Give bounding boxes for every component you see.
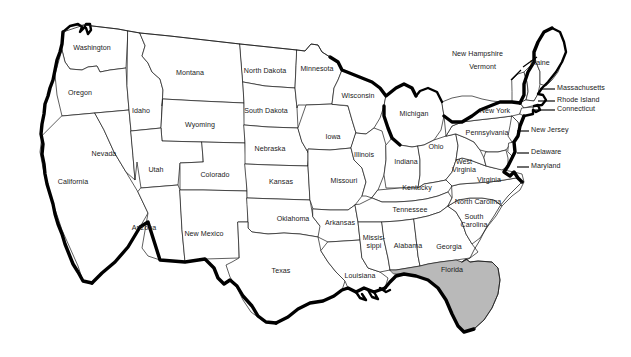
state-label-alabama[interactable]: Alabama: [394, 243, 422, 251]
state-label-south-carolina[interactable]: SouthCarolina: [457, 214, 491, 230]
state-label-montana[interactable]: Montana: [176, 70, 204, 78]
state-label-utah[interactable]: Utah: [148, 167, 163, 175]
state-label-minnesota[interactable]: Minnesota: [300, 66, 333, 74]
state-label-oregon[interactable]: Oregon: [68, 90, 92, 98]
state-label-louisiana[interactable]: Louisiana: [345, 273, 376, 281]
state-label-colorado[interactable]: Colorado: [200, 172, 229, 180]
state-shape-northdakota[interactable]: [240, 44, 297, 88]
state-label-missouri[interactable]: Missouri: [331, 178, 358, 186]
state-label-new-mexico[interactable]: New Mexico: [184, 231, 223, 239]
us-map-container: WashingtonOregonCaliforniaNevadaIdahoMon…: [0, 0, 631, 357]
state-label-arizona[interactable]: Arizona: [132, 225, 156, 233]
state-label-oklahoma[interactable]: Oklahoma: [277, 216, 310, 224]
callout-label-delaware[interactable]: Delaware: [531, 149, 561, 157]
state-label-florida[interactable]: Florida: [441, 267, 463, 275]
state-label-ohio[interactable]: Ohio: [428, 144, 443, 152]
us-map-svg: [0, 0, 631, 357]
state-shape-southdakota[interactable]: [243, 82, 298, 128]
state-label-iowa[interactable]: Iowa: [325, 134, 340, 142]
callout-label-rhode-island[interactable]: Rhode Island: [557, 97, 599, 105]
state-label-michigan[interactable]: Michigan: [400, 111, 429, 119]
state-label-idaho[interactable]: Idaho: [132, 108, 150, 116]
state-label-tennessee[interactable]: Tennessee: [393, 207, 428, 215]
state-label-missis-sippi[interactable]: Missis-sippi: [357, 235, 391, 251]
state-label-south-dakota[interactable]: South Dakota: [244, 108, 288, 116]
state-label-washington[interactable]: Washington: [73, 45, 111, 53]
callout-label-new-hampshire[interactable]: New Hampshire: [452, 51, 503, 59]
state-label-indiana[interactable]: Indiana: [394, 159, 418, 167]
state-label-north-carolina[interactable]: North Carolina: [455, 199, 501, 207]
state-label-california[interactable]: California: [58, 179, 88, 187]
state-label-maine[interactable]: Maine: [530, 60, 550, 68]
state-label-pennsylvania[interactable]: Pennsylvania: [466, 130, 509, 138]
state-label-nevada[interactable]: Nevada: [92, 151, 117, 159]
callout-label-maryland[interactable]: Maryland: [531, 163, 561, 171]
state-label-west-virginia[interactable]: WestVirginia: [447, 159, 481, 175]
state-label-texas[interactable]: Texas: [272, 268, 291, 276]
callout-label-vermont[interactable]: Vermont: [469, 64, 496, 72]
state-label-kentucky[interactable]: Kentucky: [402, 185, 432, 193]
state-label-new-york[interactable]: New York: [480, 108, 510, 116]
state-label-arkansas[interactable]: Arkansas: [325, 220, 355, 228]
callout-label-connecticut[interactable]: Connecticut: [557, 106, 595, 114]
state-label-georgia[interactable]: Georgia: [436, 244, 462, 252]
state-label-illinois[interactable]: Illinois: [354, 152, 374, 160]
callout-label-new-jersey[interactable]: New Jersey: [531, 127, 569, 135]
callout-label-massachusetts[interactable]: Massachusetts: [557, 85, 605, 93]
state-label-virginia[interactable]: Virginia: [477, 177, 501, 185]
state-label-kansas[interactable]: Kansas: [269, 179, 293, 187]
state-label-wyoming[interactable]: Wyoming: [185, 122, 215, 130]
state-label-nebraska[interactable]: Nebraska: [255, 146, 286, 154]
state-label-wisconsin[interactable]: Wisconsin: [342, 93, 375, 101]
state-label-north-dakota[interactable]: North Dakota: [244, 68, 286, 76]
